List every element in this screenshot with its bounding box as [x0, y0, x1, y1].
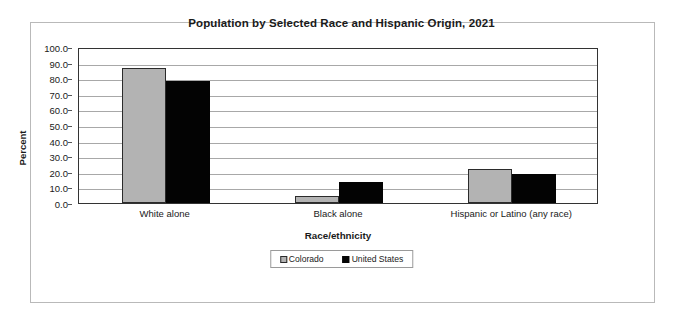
legend-item-united-states[interactable]: United States	[343, 254, 404, 264]
bar-colorado-black-alone	[295, 196, 339, 203]
bar-colorado-white-alone	[122, 68, 166, 203]
y-tick-label: 70.0	[50, 89, 69, 100]
y-tick-label: 10.0	[50, 183, 69, 194]
y-tick-label: 80.0	[50, 74, 69, 85]
chart-legend: ColoradoUnited States	[270, 250, 413, 268]
y-tick-mark	[68, 48, 72, 49]
legend-swatch-icon	[343, 256, 350, 263]
y-tick-label: 20.0	[50, 167, 69, 178]
bars-layer	[79, 49, 597, 203]
x-axis-tick-labels: White aloneBlack aloneHispanic or Latino…	[78, 208, 598, 224]
y-tick-mark	[68, 110, 72, 111]
y-tick-mark	[68, 173, 72, 174]
y-tick-mark	[68, 126, 72, 127]
bar-united-states-white-alone	[166, 81, 210, 204]
y-tick-mark	[68, 188, 72, 189]
y-tick-mark	[68, 204, 72, 205]
y-tick-label: 30.0	[50, 152, 69, 163]
y-tick-label: 50.0	[50, 121, 69, 132]
y-tick-mark	[68, 64, 72, 65]
legend-item-colorado[interactable]: Colorado	[280, 254, 324, 264]
x-tick-label: Black alone	[313, 208, 362, 219]
y-tick-mark	[68, 79, 72, 80]
plot-area	[78, 48, 598, 204]
y-tick-label: 90.0	[50, 58, 69, 69]
y-tick-label: 60.0	[50, 105, 69, 116]
y-tick-label: 100.0	[44, 43, 68, 54]
y-tick-label: 40.0	[50, 136, 69, 147]
bar-colorado-hispanic-or-latino-any-race	[468, 169, 512, 203]
bar-united-states-hispanic-or-latino-any-race	[512, 174, 556, 204]
legend-swatch-icon	[280, 256, 287, 263]
chart-title: Population by Selected Race and Hispanic…	[0, 17, 683, 29]
y-tick-mark	[68, 157, 72, 158]
legend-item-label: Colorado	[289, 254, 324, 264]
legend-item-label: United States	[352, 254, 404, 264]
x-tick-label: White alone	[140, 208, 190, 219]
x-tick-label: Hispanic or Latino (any race)	[451, 208, 572, 219]
y-tick-label: 0.0	[55, 199, 68, 210]
y-axis-tick-labels: 100.090.080.070.060.050.040.030.020.010.…	[0, 48, 72, 204]
y-tick-mark	[68, 95, 72, 96]
bar-united-states-black-alone	[339, 182, 383, 203]
y-tick-mark	[68, 142, 72, 143]
x-axis-title: Race/ethnicity	[78, 230, 598, 241]
